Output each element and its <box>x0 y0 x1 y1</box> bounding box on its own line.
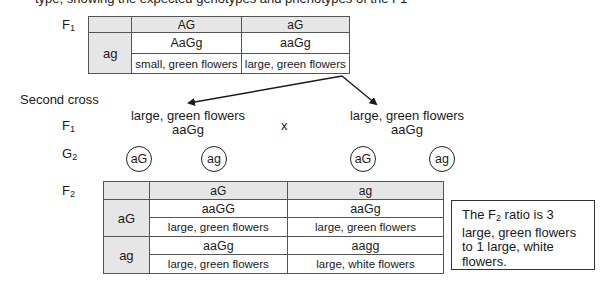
arrow-left-icon <box>189 76 342 103</box>
gamete-circle: aG <box>126 146 152 172</box>
cross-symbol: x <box>281 118 288 133</box>
column-header: ag <box>287 182 443 200</box>
genotype-cell: aagg <box>287 237 443 255</box>
parent-genotype: aaGg <box>337 123 477 137</box>
phenotype-cell: large, green flowers <box>287 218 443 237</box>
second-f1-letter: F <box>62 118 70 133</box>
column-header: aG <box>149 182 287 200</box>
gametes-label: G2 <box>62 146 77 162</box>
parent-right: large, green flowers aaGg <box>337 109 477 137</box>
f2-letter: F <box>62 183 70 198</box>
f2-subscript: 2 <box>70 189 75 199</box>
phenotype-cell: large, green flowers <box>149 218 287 237</box>
phenotype-cell: large, green flowers <box>149 255 287 274</box>
parent-genotype: aaGg <box>118 123 258 137</box>
second-cross-title: Second cross <box>20 92 99 107</box>
gamete-circle: aG <box>350 146 376 172</box>
genotype-cell: aaGG <box>149 200 287 218</box>
gamete-circle: ag <box>201 146 227 172</box>
second-f1-subscript: 1 <box>70 124 75 134</box>
ratio-note-box: The F2 ratio is 3 large, green flowers t… <box>451 200 595 270</box>
genotype-cell: aaGg <box>287 200 443 218</box>
arrow-right-icon <box>342 76 376 104</box>
parent-phenotype: large, green flowers <box>118 109 258 123</box>
gametes-subscript: 2 <box>72 152 77 162</box>
gametes-letter: G <box>62 146 72 161</box>
f2-punnett-square: aG ag aG aaGG aaGg large, green flowers … <box>103 181 444 274</box>
row-header: ag <box>104 237 150 274</box>
ratio-prefix: The F <box>462 207 496 222</box>
genotype-cell: aaGg <box>149 237 287 255</box>
parent-left: large, green flowers aaGg <box>118 109 258 137</box>
parent-phenotype: large, green flowers <box>337 109 477 123</box>
f2-label: F2 <box>62 183 75 199</box>
phenotype-cell: large, white flowers <box>287 255 443 274</box>
second-f1-label: F1 <box>62 118 75 134</box>
gamete-circle: ag <box>429 146 455 172</box>
row-header: aG <box>104 200 150 237</box>
corner-cell <box>104 182 150 200</box>
